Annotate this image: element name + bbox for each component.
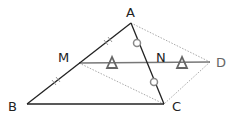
segment-MD (79, 62, 210, 63)
label-A: A (126, 5, 135, 20)
circle-marker-upper-icon (134, 40, 141, 47)
label-M: M (58, 50, 69, 65)
label-C: C (172, 99, 181, 114)
label-N: N (156, 50, 166, 65)
geometry-diagram: A M N D B C (0, 0, 244, 117)
circle-marker-lower-icon (151, 79, 158, 86)
label-D: D (216, 55, 226, 70)
label-B: B (8, 99, 17, 114)
segment-AD (131, 23, 210, 62)
